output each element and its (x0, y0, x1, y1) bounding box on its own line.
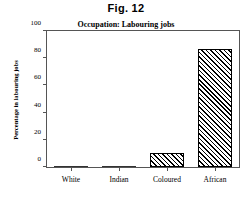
x-tick-white (71, 167, 72, 171)
y-tick-label-60: 60 (34, 73, 41, 81)
bar-african (198, 49, 233, 167)
y-tick-label-80: 80 (34, 46, 41, 54)
y-tick-label-20: 20 (34, 128, 41, 136)
x-tick-label-white: White (62, 175, 80, 184)
bar-indian (102, 166, 137, 167)
y-tick-0 (43, 166, 47, 167)
x-tick-label-indian: Indian (109, 175, 128, 184)
x-tick-label-african: African (204, 175, 227, 184)
x-tick-label-coloured: Coloured (153, 175, 181, 184)
bar-white (54, 166, 89, 167)
y-tick-60 (43, 84, 47, 85)
y-axis-title-container: Percentage in labouring jobs (8, 30, 22, 170)
y-axis-title: Percentage in labouring jobs (12, 60, 19, 140)
y-tick-label-40: 40 (34, 101, 41, 109)
x-tick-indian (119, 167, 120, 171)
y-tick-40 (43, 112, 47, 113)
x-tick-coloured (167, 167, 168, 171)
y-tick-100 (43, 30, 47, 31)
figure-container: Fig. 12 Occupation: Labouring jobs Perce… (0, 0, 252, 200)
bar-coloured (150, 153, 185, 167)
figure-number: Fig. 12 (0, 2, 252, 14)
x-tick-african (215, 167, 216, 171)
y-tick-20 (43, 139, 47, 140)
y-tick-80 (43, 57, 47, 58)
y-tick-label-100: 100 (31, 19, 42, 27)
y-tick-label-0: 0 (38, 155, 42, 163)
plot-area: 0 20 40 60 80 100 White Indian Coloured … (46, 30, 240, 168)
